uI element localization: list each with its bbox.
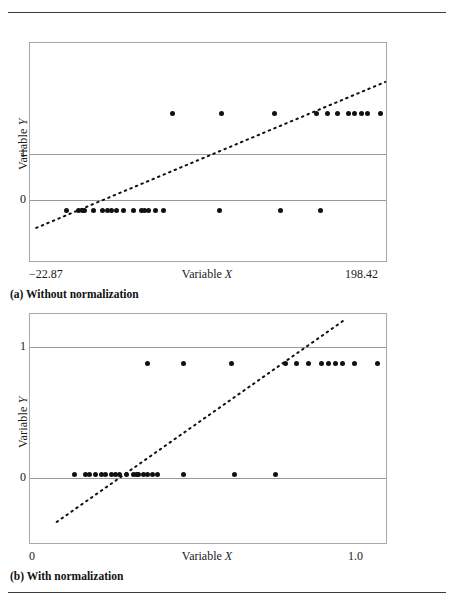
panel-a-xtick-right: 198.42 <box>345 268 378 280</box>
data-point <box>145 472 150 477</box>
data-point <box>352 111 357 116</box>
data-point <box>335 111 340 116</box>
data-point <box>217 208 222 213</box>
panel-b-xtick-left: 0 <box>29 550 35 562</box>
data-point <box>219 111 224 116</box>
panel-b-plot-area <box>29 313 387 544</box>
panel-b-x-axis-label: Variable X <box>145 550 269 562</box>
data-point <box>359 111 364 116</box>
panel-a: Variable Y 1 0 −22.87 Variable X 198.42 … <box>0 30 454 292</box>
panel-a-ytick-0: 0 <box>6 193 26 205</box>
data-point <box>82 208 87 213</box>
data-point <box>378 111 383 116</box>
data-point <box>109 208 114 213</box>
panel-b: Variable Y 1 0 0 Variable X 1.0 (b) With… <box>0 300 454 592</box>
bottom-horizontal-rule <box>8 592 446 593</box>
panel-b-caption: (b) With normalization <box>10 570 123 583</box>
panel-a-trend-line <box>30 43 386 261</box>
panel-a-xtick-left: −22.87 <box>29 268 63 280</box>
panel-b-ytick-1: 1 <box>6 340 26 352</box>
data-point <box>153 208 158 213</box>
data-point <box>161 208 166 213</box>
panel-a-ytick-1: 1 <box>6 147 26 159</box>
top-horizontal-rule <box>8 12 446 13</box>
data-point <box>155 472 160 477</box>
data-point <box>181 472 186 477</box>
data-point <box>272 111 277 116</box>
data-point <box>365 111 370 116</box>
data-point <box>91 208 96 213</box>
data-point <box>131 208 136 213</box>
data-point <box>346 111 351 116</box>
data-point <box>229 361 234 366</box>
panel-b-trend-line <box>30 314 386 543</box>
data-point <box>72 472 77 477</box>
data-point <box>325 111 330 116</box>
panel-a-plot-area <box>29 42 387 262</box>
panel-b-xtick-right: 1.0 <box>348 550 363 562</box>
data-point <box>100 208 105 213</box>
data-point <box>375 361 380 366</box>
data-point <box>314 111 319 116</box>
panel-a-x-axis-label: Variable X <box>145 268 269 280</box>
figure-page: Variable Y 1 0 −22.87 Variable X 198.42 … <box>0 0 454 604</box>
data-point <box>146 208 151 213</box>
panel-b-ytick-0: 0 <box>6 471 26 483</box>
data-point <box>319 361 324 366</box>
data-point <box>103 472 108 477</box>
data-point <box>181 361 186 366</box>
